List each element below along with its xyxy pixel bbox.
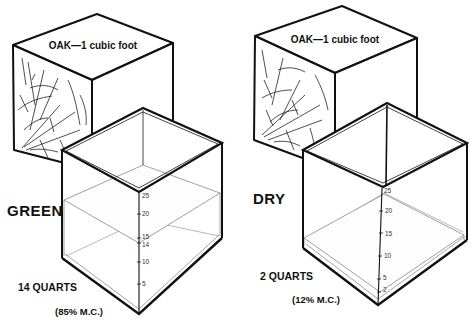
measuring-box-green: 25 20 15 14 10 5 — [62, 108, 222, 314]
panel-dry: OAK—1 cubic foot — [253, 6, 467, 305]
tick-label: 10 — [142, 258, 150, 265]
water-quarts-label: 2 QUARTS — [260, 270, 313, 282]
tick-label: 10 — [384, 252, 392, 259]
tick-label: 5 — [142, 280, 146, 287]
water-quarts-label: 14 QUARTS — [18, 281, 77, 293]
cube-label: OAK—1 cubic foot — [291, 34, 380, 45]
moisture-content-label: (12% M.C.) — [292, 294, 340, 305]
cube-label: OAK—1 cubic foot — [49, 40, 138, 51]
tick-label: 25 — [142, 192, 150, 199]
tick-label-water-level: 14 — [142, 241, 150, 248]
state-label-dry: DRY — [253, 190, 286, 207]
moisture-content-label: (85% M.C.) — [55, 306, 103, 317]
tick-label: 20 — [385, 207, 393, 214]
tick-label: 15 — [142, 233, 150, 240]
panel-green: OAK—1 cubic foot — [7, 14, 222, 317]
tick-label: 20 — [142, 210, 150, 217]
tick-label-water-level: 2 — [383, 286, 387, 293]
tick-label: 5 — [383, 274, 387, 281]
tick-label: 15 — [385, 230, 393, 237]
state-label-green: GREEN — [7, 202, 63, 219]
oak-moisture-diagram: OAK—1 cubic foot — [0, 0, 475, 326]
tick-label: 25 — [384, 187, 392, 194]
